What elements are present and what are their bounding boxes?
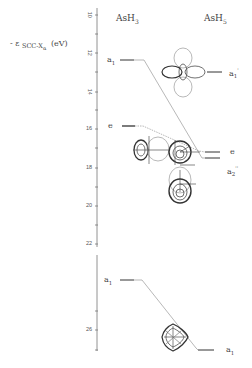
orbital-plot-a2-double-prime — [169, 165, 196, 203]
correlation-a1-to-a2pp — [134, 60, 205, 158]
orbital-plot-e-center — [169, 140, 200, 165]
orbital-plot-e-left — [133, 136, 169, 164]
orbital-plot-a1-prime — [162, 48, 205, 97]
orbital-plot-a1-lower — [162, 324, 188, 351]
correlation-lines — [134, 60, 205, 350]
ash3-levels — [120, 60, 135, 280]
ash5-levels — [198, 72, 222, 350]
energy-axis — [95, 8, 98, 351]
diagram-canvas — [0, 0, 252, 368]
